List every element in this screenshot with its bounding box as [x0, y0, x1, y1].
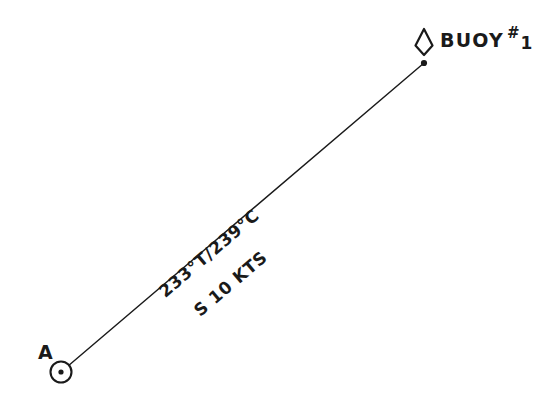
fix-symbol-a [51, 362, 72, 383]
buoy-symbol [416, 29, 433, 66]
buoy-diamond-icon [416, 29, 433, 55]
buoy-label-hash: # [507, 24, 520, 42]
buoy-position-dot [421, 60, 427, 66]
buoy-name-label: BUOY#1 [440, 24, 532, 53]
buoy-label-text: BUOY [440, 29, 504, 51]
navigation-plot-canvas: A 233°T/239°C S 10 KTS BUOY#1 [0, 0, 547, 412]
buoy-label-number: 1 [521, 33, 533, 53]
fix-center-dot [58, 369, 63, 374]
fix-label-a: A [38, 341, 53, 363]
plot-drawing-layer [0, 0, 547, 412]
